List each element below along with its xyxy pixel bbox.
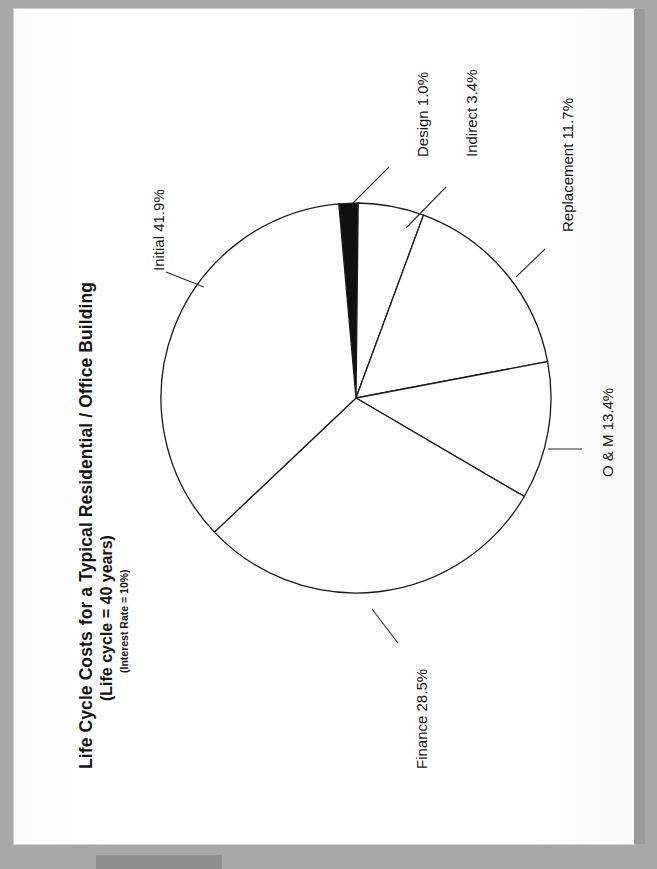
pie-label-finance: Finance 28.5% <box>413 669 430 769</box>
leader-line-replacement <box>516 249 545 277</box>
scanned-page: Design 1.0% Indirect 3.4% Replacement 11… <box>14 9 634 844</box>
page-title: Life Cycle Costsfor a Typical Residentia… <box>76 69 96 769</box>
scan-edge-right <box>634 9 645 844</box>
chart-subtitle: (Life cycle = 40 years) <box>98 69 116 701</box>
pie-label-initial: Initial 41.9% <box>150 189 167 271</box>
pie-label-om: O & M 13.4% <box>599 388 616 477</box>
pie-label-design: Design 1.0% <box>414 72 431 157</box>
pie-label-indirect: Indirect 3.4% <box>463 69 480 157</box>
leader-line-finance <box>372 609 398 643</box>
chart-title-block: Life Cycle Costsfor a Typical Residentia… <box>76 69 130 769</box>
leader-line-design <box>351 167 389 205</box>
pie-label-replacement: Replacement 11.7% <box>559 98 576 232</box>
chart-note: (Interest Rate = 10%) <box>118 69 130 673</box>
scan-edge-bottom <box>96 855 222 869</box>
leader-line-initial <box>166 272 204 287</box>
page-title-rest: for a Typical Residential / Office Build… <box>76 282 96 625</box>
page-title-prefix: Life Cycle Costs <box>76 631 96 769</box>
screenshot-root: Design 1.0% Indirect 3.4% Replacement 11… <box>0 0 657 869</box>
pie-slices <box>161 203 551 593</box>
